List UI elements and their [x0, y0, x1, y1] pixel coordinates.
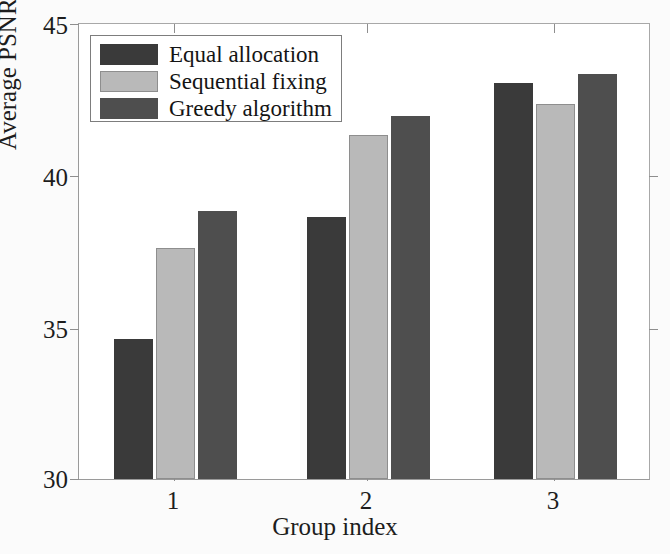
bar-g3-greedy-algorithm [578, 74, 617, 479]
legend-item-greedy-algorithm: Greedy algorithm [91, 95, 341, 122]
legend-label-equal-allocation: Equal allocation [169, 43, 319, 66]
x-tick-top-3 [554, 24, 555, 33]
bar-g3-equal-allocation [494, 83, 533, 479]
legend-label-greedy-algorithm: Greedy algorithm [169, 97, 332, 120]
y-tick-right-35 [649, 329, 658, 330]
x-tick-top-1 [174, 24, 175, 33]
y-axis-title: Average PSNR(dB) [0, 0, 22, 150]
bar-g1-greedy-algorithm [198, 211, 237, 479]
x-tick-label-2: 2 [336, 488, 396, 513]
x-tick-label-1: 1 [143, 488, 203, 513]
y-tick-40 [70, 176, 79, 177]
x-axis-title: Group index [0, 513, 670, 541]
legend-label-sequential-fixing: Sequential fixing [169, 70, 327, 93]
legend-swatch-icon-sequential-fixing [100, 71, 158, 92]
y-tick-right-40 [649, 176, 658, 177]
legend-swatch-icon-greedy-algorithm [100, 98, 158, 119]
legend-item-sequential-fixing: Sequential fixing [91, 68, 341, 95]
y-tick-35 [70, 329, 79, 330]
bar-g3-sequential-fixing [536, 104, 575, 479]
y-tick-label-35: 35 [8, 317, 68, 342]
legend-swatch-icon-equal-allocation [100, 44, 158, 65]
x-tick-top-2 [367, 24, 368, 33]
bar-g2-greedy-algorithm [391, 116, 430, 479]
legend: Equal allocation Sequential fixing Greed… [90, 35, 342, 122]
y-tick-label-40: 40 [8, 165, 68, 190]
bar-g1-sequential-fixing [156, 248, 195, 480]
y-tick-label-30: 30 [8, 467, 68, 492]
y-tick-45 [70, 24, 79, 25]
x-tick-label-3: 3 [523, 488, 583, 513]
figure-bar-chart: 30 35 40 45 1 2 3 Average PSNR(dB) Group… [0, 0, 670, 554]
bar-g2-sequential-fixing [349, 135, 388, 479]
legend-item-equal-allocation: Equal allocation [91, 41, 341, 68]
bar-g1-equal-allocation [114, 339, 153, 479]
y-tick-30 [70, 479, 79, 480]
bar-g2-equal-allocation [307, 217, 346, 479]
